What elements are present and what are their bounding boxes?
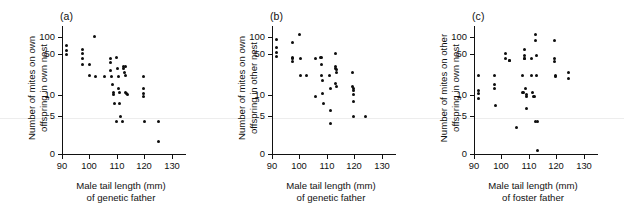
data-point bbox=[553, 60, 556, 63]
data-point bbox=[524, 87, 527, 90]
data-point bbox=[299, 57, 302, 60]
x-tick bbox=[354, 155, 355, 159]
data-point bbox=[275, 46, 278, 49]
data-point bbox=[109, 57, 112, 60]
data-point bbox=[115, 120, 118, 123]
data-point bbox=[521, 74, 524, 77]
y-tick bbox=[268, 37, 272, 38]
y-tick-label: 50 bbox=[234, 48, 265, 59]
x-tick bbox=[382, 155, 383, 159]
data-point bbox=[328, 74, 331, 77]
data-point bbox=[112, 93, 115, 96]
data-point bbox=[534, 39, 537, 42]
y-tick-label: 10 bbox=[24, 89, 55, 100]
y-axis-line bbox=[62, 26, 63, 154]
x-tick-label: 130 bbox=[570, 160, 598, 171]
x-tick-label: 120 bbox=[542, 160, 570, 171]
data-point bbox=[494, 104, 497, 107]
data-point bbox=[142, 75, 145, 78]
x-tick bbox=[299, 155, 300, 159]
y-tick-label: 5 bbox=[234, 110, 265, 121]
data-point bbox=[121, 120, 124, 123]
data-point bbox=[523, 57, 526, 60]
data-point bbox=[504, 52, 507, 55]
x-tick-label: 90 bbox=[48, 160, 76, 171]
data-point bbox=[534, 33, 537, 36]
x-tick-label: 90 bbox=[258, 160, 286, 171]
data-point bbox=[81, 48, 84, 51]
x-tick-label: 100 bbox=[75, 160, 103, 171]
x-tick-label: 90 bbox=[460, 160, 488, 171]
data-point bbox=[364, 115, 367, 118]
data-point bbox=[493, 83, 496, 86]
data-point bbox=[352, 93, 355, 96]
y-tick-label: 100 bbox=[234, 31, 265, 42]
data-point bbox=[554, 75, 557, 78]
data-point bbox=[525, 95, 528, 98]
data-point bbox=[81, 52, 84, 55]
x-tick bbox=[474, 155, 475, 159]
x-tick bbox=[89, 155, 90, 159]
data-point bbox=[116, 67, 119, 70]
data-point bbox=[493, 74, 496, 77]
x-tick-label: 130 bbox=[158, 160, 186, 171]
data-point bbox=[515, 126, 518, 129]
data-point bbox=[477, 92, 480, 95]
data-point bbox=[305, 74, 308, 77]
data-point bbox=[142, 87, 145, 90]
data-point bbox=[109, 69, 112, 72]
y-axis-line bbox=[272, 26, 273, 154]
data-point bbox=[334, 52, 337, 55]
plot-area-b: 05105010090100110120130 bbox=[210, 0, 422, 212]
y-tick bbox=[58, 37, 62, 38]
data-point bbox=[320, 74, 323, 77]
data-point bbox=[124, 74, 127, 77]
x-tick-label: 110 bbox=[515, 160, 543, 171]
data-point bbox=[536, 149, 539, 152]
figure-three-panel-scatter: (a)Number of mites on ownoffspring in ow… bbox=[0, 0, 624, 212]
data-point bbox=[88, 63, 91, 66]
data-point bbox=[142, 95, 145, 98]
x-tick-label: 100 bbox=[487, 160, 515, 171]
data-point bbox=[553, 39, 556, 42]
data-point bbox=[531, 91, 534, 94]
data-point bbox=[291, 60, 294, 63]
data-point bbox=[291, 41, 294, 44]
x-tick-label: 110 bbox=[103, 160, 131, 171]
data-point bbox=[65, 53, 68, 56]
data-point bbox=[567, 77, 570, 80]
data-point bbox=[117, 75, 120, 78]
data-point bbox=[88, 74, 91, 77]
data-point bbox=[352, 100, 355, 103]
y-tick bbox=[470, 54, 474, 55]
y-tick-label: 100 bbox=[24, 31, 55, 42]
y-tick-label: 100 bbox=[436, 31, 467, 42]
y-tick-label: 50 bbox=[24, 48, 55, 59]
y-tick bbox=[470, 116, 474, 117]
data-point bbox=[314, 57, 317, 60]
x-tick bbox=[172, 155, 173, 159]
data-point bbox=[530, 74, 533, 77]
data-point bbox=[110, 75, 113, 78]
y-axis-line bbox=[474, 26, 475, 154]
y-tick bbox=[268, 95, 272, 96]
data-point bbox=[109, 61, 112, 64]
data-point bbox=[117, 87, 120, 90]
data-point bbox=[320, 56, 323, 59]
data-point bbox=[352, 115, 355, 118]
data-point bbox=[335, 85, 338, 88]
data-point bbox=[477, 74, 480, 77]
data-point bbox=[299, 74, 302, 77]
data-point bbox=[493, 87, 496, 90]
y-tick bbox=[268, 54, 272, 55]
data-point bbox=[143, 120, 146, 123]
data-point bbox=[298, 33, 301, 36]
y-tick-label: 0 bbox=[234, 148, 265, 159]
x-tick bbox=[144, 155, 145, 159]
x-tick bbox=[501, 155, 502, 159]
data-point bbox=[81, 57, 84, 60]
data-point bbox=[525, 107, 528, 110]
y-tick bbox=[58, 54, 62, 55]
x-tick bbox=[556, 155, 557, 159]
y-tick bbox=[268, 116, 272, 117]
